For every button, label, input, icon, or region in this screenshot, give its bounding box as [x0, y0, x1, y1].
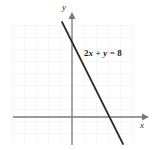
y-axis-arrowhead [69, 12, 76, 19]
x-axis-label: x [140, 120, 144, 130]
equation-constant: 8 [117, 48, 122, 58]
equation-equals-sign: = [110, 48, 115, 58]
equation-plus-sign: + [96, 48, 101, 58]
line-equation-label: 2x + y = 8 [84, 48, 122, 58]
graph-figure: 2x + y = 8 y x [0, 0, 157, 150]
equation-y-variable: y [103, 48, 107, 58]
equation-x-variable: x [89, 48, 94, 58]
y-axis-label: y [62, 2, 66, 12]
coordinate-plane [0, 0, 157, 150]
